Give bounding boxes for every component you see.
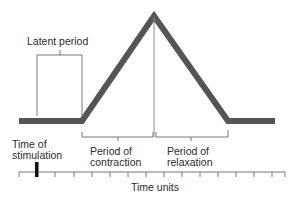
twitch-curve [19, 16, 275, 121]
twitch-diagram [0, 0, 303, 203]
time-of-stimulation-label-line2: stimulation [12, 150, 62, 161]
relaxation-label-line2: relaxation [167, 157, 213, 168]
contraction-bracket [82, 132, 153, 141]
contraction-label-line2: contraction [90, 157, 141, 168]
time-axis [19, 172, 285, 177]
relaxation-bracket [156, 130, 228, 141]
stimulation-marker [35, 162, 39, 177]
latent-period-label: Latent period [27, 36, 88, 47]
x-axis-label: Time units [131, 182, 179, 193]
latent-period-bracket [37, 50, 82, 116]
